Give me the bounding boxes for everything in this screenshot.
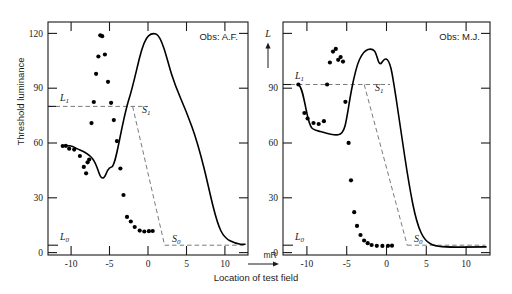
x-ticklabel: -5 [106, 259, 114, 269]
panel-left-x-ticks [71, 22, 225, 255]
panel-left-S1-label: S1 [142, 104, 151, 117]
y-axis-title: Threshold luminance [15, 12, 26, 192]
panel-right-x-ticklabels: -10 -5 0 5 10 [301, 259, 472, 269]
x-ticklabel: -10 [301, 259, 314, 269]
panel-right-data-points [296, 47, 394, 248]
panel-left-L1-label: L1 [59, 92, 69, 105]
panel-right-S1-step-profile [364, 85, 407, 246]
x-ticklabel: 10 [461, 259, 471, 269]
x-ticklabel: 10 [220, 259, 230, 269]
y-ticklabel: 30 [34, 193, 44, 203]
panel-left-observer-label: Obs: A.F. [199, 31, 238, 42]
panel-right-L-axis-arrow: L [264, 28, 271, 68]
panel-left-x-ticklabels: -10 -5 0 5 10 [65, 259, 230, 269]
panel-left-data-points [61, 33, 155, 233]
panel-left-y-ticks [48, 33, 248, 252]
mR-label: mR [263, 250, 276, 260]
y-ticklabel: 90 [269, 83, 279, 93]
panel-left: 120 90 60 30 0 -10 -5 [29, 22, 248, 269]
x-ticklabel: -10 [65, 259, 78, 269]
panel-right-observer-label: Obs: M.J. [439, 31, 480, 42]
x-ticklabel: 5 [184, 259, 189, 269]
panel-right-L0-label: L0 [294, 231, 305, 244]
panel-left-frame [48, 22, 248, 255]
plot-svg: 120 90 60 30 0 -10 -5 [0, 0, 512, 294]
x-ticklabel: 0 [146, 259, 151, 269]
panel-left-y-ticklabels: 120 90 60 30 0 [29, 29, 44, 258]
y-ticklabel: 120 [29, 29, 44, 39]
panel-right-y-ticklabels: 90 60 30 0 [269, 83, 279, 257]
panel-right-x-ticks [307, 22, 466, 255]
panel-right-S1-label: S1 [375, 82, 384, 95]
panel-left-S1-step-profile [133, 106, 165, 245]
figure-container: 120 90 60 30 0 -10 -5 [0, 0, 512, 294]
panel-left-L0-label: L0 [59, 231, 70, 244]
panel-right-L1-label: L1 [294, 70, 304, 83]
panel-right-threshold-curve [298, 49, 486, 247]
y-ticklabel: 60 [269, 138, 279, 148]
y-ticklabel: 30 [269, 193, 279, 203]
panel-left-threshold-curve [63, 34, 245, 245]
panel-right: L 90 60 30 0 [264, 22, 490, 269]
mR-arrow-annotation: mR [248, 250, 279, 267]
y-ticklabel: 60 [34, 138, 44, 148]
panel-left-S0-label: S0 [172, 233, 181, 246]
x-ticklabel: -5 [343, 259, 351, 269]
panel-right-frame [283, 22, 490, 255]
x-axis-title: Location of test field [0, 272, 512, 283]
x-ticklabel: 0 [384, 259, 389, 269]
y-ticklabel: 0 [38, 248, 43, 258]
panel-right-L-label: L [264, 28, 271, 39]
y-ticklabel: 90 [34, 83, 44, 93]
panel-right-y-ticks [283, 33, 490, 252]
x-ticklabel: 5 [424, 259, 429, 269]
